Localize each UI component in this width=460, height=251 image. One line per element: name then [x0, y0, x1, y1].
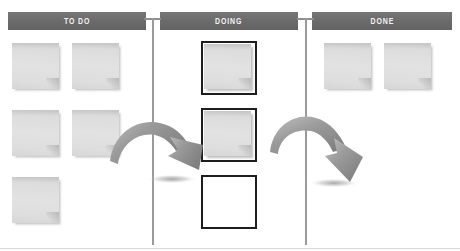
sticky-note[interactable] [72, 43, 119, 89]
bottom-divider [0, 248, 460, 249]
card-slot-filled[interactable] [201, 108, 257, 162]
divider-todo-doing [152, 18, 154, 245]
column-header-done[interactable]: DONE [312, 12, 452, 30]
sticky-note[interactable] [324, 43, 371, 89]
column-header-doing[interactable]: DOING [160, 12, 298, 30]
arrow-shadow [147, 174, 197, 183]
sticky-note[interactable] [384, 43, 431, 89]
sticky-note[interactable] [12, 177, 59, 223]
column-header-todo[interactable]: TO DO [8, 12, 146, 30]
column-title-todo: TO DO [64, 17, 90, 26]
column-title-doing: DOING [215, 17, 242, 26]
card-slot-empty[interactable] [201, 175, 257, 229]
card-slot-filled[interactable] [201, 41, 257, 95]
divider-doing-done [305, 18, 307, 245]
arrow-todo-to-doing-icon [108, 106, 213, 191]
sticky-note[interactable] [12, 43, 59, 89]
kanban-board: TO DO DOING DONE [0, 0, 460, 251]
sticky-note[interactable] [204, 111, 251, 156]
sticky-note[interactable] [72, 110, 119, 156]
sticky-note[interactable] [12, 110, 59, 156]
column-title-done: DONE [370, 17, 394, 26]
arrow-shadow [309, 178, 359, 187]
arrow-doing-to-done-icon [268, 104, 373, 192]
sticky-note[interactable] [204, 44, 251, 89]
